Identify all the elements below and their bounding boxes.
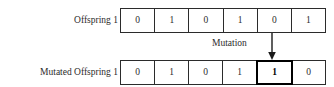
gene-cell: 1: [223, 61, 257, 84]
mutation-annotation-label: Mutation: [212, 39, 247, 49]
gene-cell: 0: [121, 61, 155, 84]
mutation-diagram: Offspring 1 0 1 0 1 0 1 Mutation Mutated…: [0, 0, 334, 87]
arrow-down-icon: [264, 33, 280, 61]
mutated-gene-cell: 1: [256, 60, 293, 85]
gene-cell: 0: [189, 9, 223, 32]
mutated-offspring-row-label: Mutated Offspring 1: [40, 68, 118, 78]
offspring-row-label: Offspring 1: [74, 16, 118, 26]
mutated-offspring-chromosome: 0 1 0 1 1 0: [120, 60, 326, 85]
gene-cell: 0: [121, 9, 155, 32]
gene-cell: 1: [224, 9, 258, 32]
gene-cell: 1: [155, 61, 189, 84]
gene-cell: 1: [292, 9, 325, 32]
gene-cell: 0: [292, 61, 325, 84]
gene-cell: 1: [155, 9, 189, 32]
gene-cell: 0: [258, 9, 292, 32]
gene-cell: 0: [189, 61, 223, 84]
offspring-chromosome: 0 1 0 1 0 1: [120, 8, 326, 33]
